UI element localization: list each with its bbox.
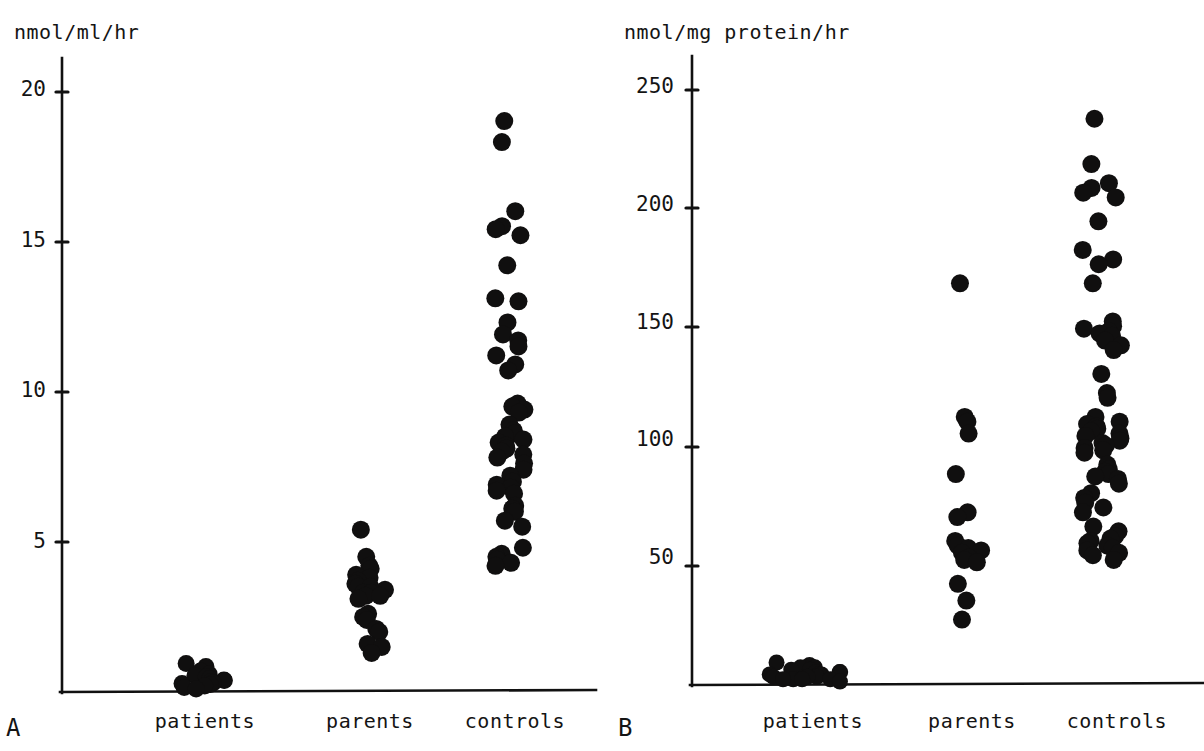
data-point <box>363 644 381 662</box>
panel-b: nmol/mg protein/hr B 250 200 150 100 50 … <box>602 0 1204 751</box>
data-point <box>960 425 978 443</box>
data-point <box>1090 255 1108 273</box>
data-point <box>502 554 520 572</box>
data-point <box>775 671 791 687</box>
data-point <box>1084 546 1102 564</box>
data-point <box>495 112 513 130</box>
data-point <box>514 539 532 557</box>
panel-a-plot <box>0 0 602 751</box>
data-point <box>1075 444 1093 462</box>
data-point <box>486 289 504 307</box>
data-point <box>832 674 848 690</box>
data-point <box>1105 341 1123 359</box>
panel-b-plot <box>602 0 1204 751</box>
data-point <box>1082 155 1100 173</box>
data-point <box>352 521 370 539</box>
data-point <box>349 590 367 608</box>
panel-a: nmol/ml/hr A 20 15 10 5 patients parents… <box>0 0 602 751</box>
data-point <box>506 202 524 220</box>
data-point <box>496 512 514 530</box>
data-point <box>953 611 971 629</box>
data-point <box>794 671 810 687</box>
data-point <box>1092 365 1110 383</box>
data-point <box>947 465 965 483</box>
data-point <box>509 292 527 310</box>
data-point <box>499 361 517 379</box>
data-point <box>951 274 969 292</box>
data-point <box>498 256 516 274</box>
panel-b-axes <box>690 56 1204 686</box>
data-point <box>509 337 527 355</box>
data-point <box>1110 475 1128 493</box>
data-point <box>1099 389 1117 407</box>
data-point <box>1107 188 1125 206</box>
data-point <box>1075 320 1093 338</box>
data-point <box>948 508 966 526</box>
data-point <box>513 518 531 536</box>
data-point <box>511 226 529 244</box>
data-point <box>188 681 205 698</box>
data-point <box>957 592 975 610</box>
panel-a-datapoints <box>174 112 534 697</box>
data-point <box>949 575 967 593</box>
data-point <box>487 346 505 364</box>
data-point <box>1074 241 1092 259</box>
data-point <box>1074 184 1092 202</box>
data-point <box>488 449 506 467</box>
data-point <box>493 133 511 151</box>
panel-b-datapoints <box>762 110 1130 690</box>
data-point <box>1094 499 1112 517</box>
data-point <box>1089 212 1107 230</box>
data-point <box>1084 274 1102 292</box>
data-point <box>487 220 505 238</box>
data-point <box>486 557 504 575</box>
data-point <box>371 587 389 605</box>
data-point <box>1105 551 1123 569</box>
data-point <box>968 553 986 571</box>
data-point <box>488 482 506 500</box>
data-point <box>1086 468 1104 486</box>
data-point <box>1085 110 1103 128</box>
scientific-figure: nmol/ml/hr A 20 15 10 5 patients parents… <box>0 0 1204 751</box>
